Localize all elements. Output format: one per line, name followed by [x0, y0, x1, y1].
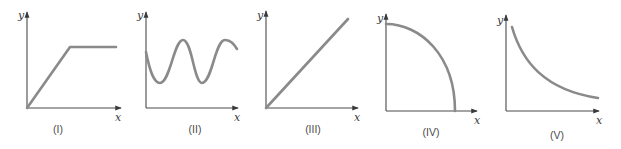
linear-curve: [266, 19, 348, 108]
panel-iv: y x (IV): [376, 12, 481, 138]
x-axis-label: x: [354, 111, 361, 124]
panel-i: y x (I): [17, 9, 122, 135]
panel-label: (V): [550, 129, 564, 141]
x-axis-label: x: [115, 111, 122, 124]
x-axis-label: x: [474, 114, 481, 127]
y-axis-label: y: [496, 14, 504, 27]
decay-curve: [512, 27, 598, 98]
y-axis-label: y: [256, 9, 264, 22]
y-axis-label: y: [17, 9, 25, 22]
x-axis-label: x: [234, 111, 241, 124]
x-axis-label: x: [596, 114, 603, 127]
y-axis-label: y: [136, 9, 144, 22]
panel-iii: y x (III): [256, 9, 361, 135]
quarter-arc-curve: [386, 24, 455, 111]
panel-label: (III): [305, 123, 321, 135]
sinusoid-curve: [146, 40, 237, 83]
panel-label: (II): [189, 123, 202, 135]
y-axis-label: y: [376, 12, 384, 25]
panel-v: y x (V): [496, 14, 603, 141]
graph-panels-figure: y x (I) y x (II) y x (III) y x (IV) y x …: [0, 0, 621, 149]
rise-plateau-curve: [27, 47, 116, 108]
panel-label: (I): [53, 123, 63, 135]
panel-label: (IV): [423, 126, 440, 138]
panel-ii: y x (II): [136, 9, 241, 135]
